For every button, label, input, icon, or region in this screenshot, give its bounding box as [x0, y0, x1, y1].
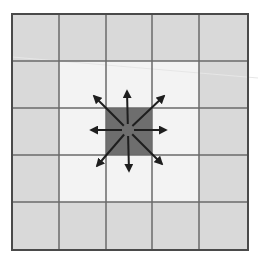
grid-cell-outer	[152, 202, 199, 250]
grid-cell-outer	[59, 202, 106, 250]
arrow-down-icon	[128, 136, 129, 171]
grid-cell-neighbor	[59, 155, 106, 202]
grid-cell-outer	[59, 14, 106, 61]
grid-cell-outer	[106, 202, 152, 250]
grid-cell-outer	[199, 61, 248, 108]
grid-cell-outer	[199, 155, 248, 202]
grid-cells	[12, 14, 248, 250]
grid-cell-outer	[199, 108, 248, 155]
grid-neighborhood-diagram	[0, 0, 258, 261]
grid-cell-neighbor	[59, 108, 106, 155]
grid-cell-outer	[12, 155, 59, 202]
grid-cell-outer	[199, 202, 248, 250]
grid-cell-outer	[106, 14, 152, 61]
grid-cell-neighbor	[152, 108, 199, 155]
grid-cell-outer	[199, 14, 248, 61]
grid-cell-outer	[152, 14, 199, 61]
grid-cell-outer	[12, 108, 59, 155]
arrow-up-icon	[127, 91, 128, 124]
grid-cell-outer	[12, 61, 59, 108]
grid-cell-outer	[12, 202, 59, 250]
grid-cell-outer	[12, 14, 59, 61]
